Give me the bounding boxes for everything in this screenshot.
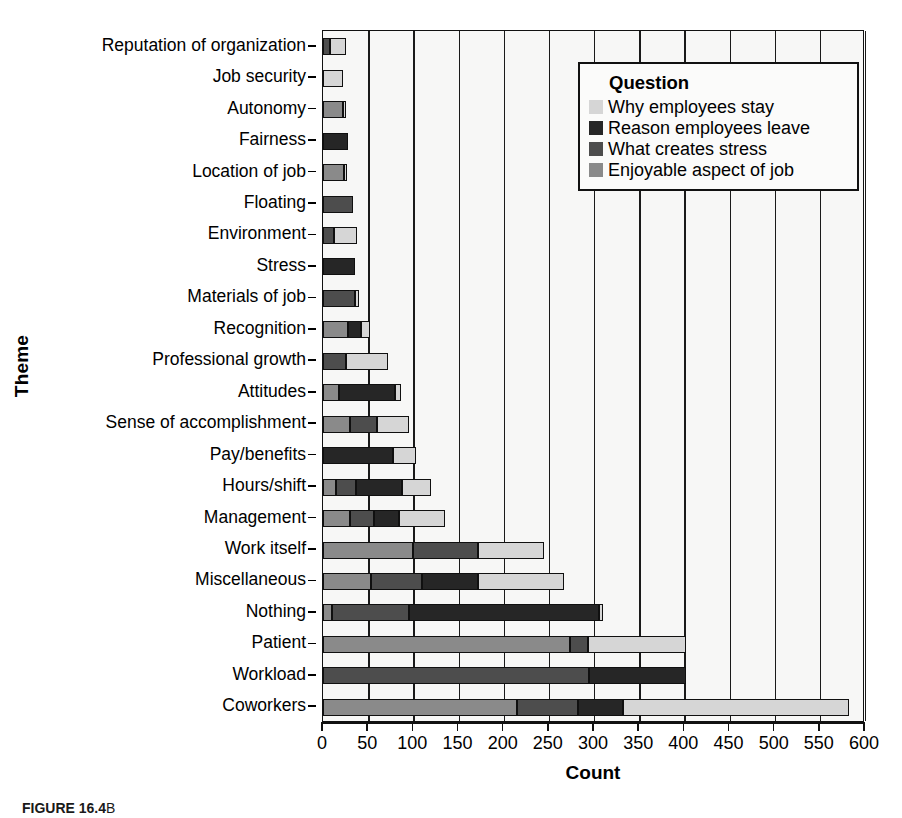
bar-segment	[393, 447, 416, 464]
bar-segment	[356, 479, 403, 496]
y-axis-tick-label: Professional growth	[16, 351, 306, 369]
bar-row	[323, 353, 865, 370]
bar-segment	[323, 479, 336, 496]
bar-segment	[330, 38, 345, 55]
bar-segment	[323, 604, 332, 621]
y-axis-tick-mark	[308, 643, 316, 645]
figure-label: FIGURE 16.4	[22, 800, 106, 816]
legend-swatch-icon	[589, 100, 603, 114]
bar-row	[323, 667, 865, 684]
bar-segment	[323, 196, 353, 213]
bar-row	[323, 196, 865, 213]
y-axis-tick-label: Autonomy	[16, 100, 306, 118]
x-axis-tick-mark	[863, 722, 865, 731]
y-axis-tick-label: Coworkers	[16, 697, 306, 715]
bar-segment	[323, 416, 350, 433]
y-axis-tick-labels: Reputation of organizationJob securityAu…	[20, 30, 316, 722]
y-axis-tick-label: Patient	[16, 634, 306, 652]
bar-segment	[344, 164, 347, 181]
bar-segment	[323, 164, 344, 181]
y-axis-tick-mark	[308, 139, 316, 141]
legend-entries: Why employees stayReason employees leave…	[589, 97, 848, 180]
bar-row	[323, 636, 865, 653]
bar-segment	[323, 384, 339, 401]
y-axis-tick-label: Fairness	[16, 131, 306, 149]
bar-segment	[399, 510, 445, 527]
bar-row	[323, 227, 865, 244]
x-axis-tick-mark	[728, 722, 730, 731]
y-axis-tick-label: Attitudes	[16, 383, 306, 401]
bar-segment	[517, 699, 578, 716]
bar-row	[323, 479, 865, 496]
bar-segment	[377, 416, 409, 433]
bar-row	[323, 258, 865, 275]
y-axis-tick-label: Management	[16, 509, 306, 527]
bar-row	[323, 604, 865, 621]
bar-row	[323, 38, 865, 55]
y-axis-tick-mark	[308, 328, 316, 330]
bar-segment	[350, 510, 373, 527]
x-axis-tick-mark	[321, 722, 323, 731]
bar-segment	[350, 416, 377, 433]
bar-segment	[323, 542, 413, 559]
bar-row	[323, 510, 865, 527]
bar-row	[323, 447, 865, 464]
bar-row	[323, 416, 865, 433]
y-axis-tick-mark	[308, 485, 316, 487]
bar-segment	[323, 447, 393, 464]
bar-segment	[323, 573, 371, 590]
y-axis-tick-label: Pay/benefits	[16, 446, 306, 464]
bar-segment	[478, 573, 564, 590]
legend-title: Question	[609, 72, 848, 94]
y-axis-tick-label: Job security	[16, 68, 306, 86]
y-axis-tick-label: Work itself	[16, 540, 306, 558]
x-axis-tick-mark	[637, 722, 639, 731]
x-axis-tick-mark	[412, 722, 414, 731]
x-axis-tick-mark	[366, 722, 368, 731]
bar-segment	[348, 321, 361, 338]
bar-row	[323, 321, 865, 338]
x-axis-tick-mark	[683, 722, 685, 731]
y-axis-tick-mark	[308, 517, 316, 519]
x-axis-tick-mark	[773, 722, 775, 731]
x-axis-tick-mark	[818, 722, 820, 731]
legend-entry-label: Reason employees leave	[608, 118, 810, 138]
bar-segment	[589, 667, 687, 684]
y-axis-tick-label: Location of job	[16, 163, 306, 181]
legend-swatch-icon	[589, 121, 603, 135]
bar-segment	[323, 70, 343, 87]
y-axis-tick-mark	[308, 422, 316, 424]
figure-caption-text: B	[106, 800, 115, 816]
y-axis-tick-label: Stress	[16, 257, 306, 275]
bar-row	[323, 384, 865, 401]
bar-segment	[323, 699, 517, 716]
bar-segment	[323, 227, 334, 244]
x-axis-tick-mark	[592, 722, 594, 731]
figure-caption: FIGURE 16.4B	[22, 800, 115, 816]
y-axis-tick-mark	[308, 234, 316, 236]
y-axis-tick-label: Nothing	[16, 603, 306, 621]
legend-entry: Enjoyable aspect of job	[589, 160, 848, 180]
bar-segment	[422, 573, 478, 590]
bar-row	[323, 573, 865, 590]
y-axis-tick-mark	[308, 265, 316, 267]
bar-segment	[323, 321, 348, 338]
bar-segment	[323, 38, 330, 55]
y-axis-tick-mark	[308, 297, 316, 299]
y-axis-tick-mark	[308, 705, 316, 707]
bar-segment	[578, 699, 623, 716]
bar-segment	[570, 636, 588, 653]
bar-segment	[395, 384, 400, 401]
x-axis-title: Count	[322, 762, 864, 784]
x-axis-tick-mark	[502, 722, 504, 731]
bar-segment	[371, 573, 422, 590]
bar-segment	[588, 636, 686, 653]
bar-segment	[413, 542, 478, 559]
legend-entry-label: What creates stress	[608, 139, 767, 159]
y-axis-tick-mark	[308, 202, 316, 204]
y-axis-tick-mark	[308, 391, 316, 393]
bar-segment	[343, 101, 346, 118]
y-axis-tick-label: Recognition	[16, 320, 306, 338]
legend: Question Why employees stayReason employ…	[578, 62, 859, 191]
bar-row	[323, 290, 865, 307]
